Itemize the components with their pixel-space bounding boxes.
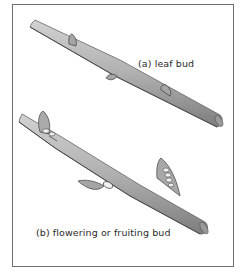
fruiting-bud-2 — [78, 180, 114, 190]
caption-fruiting-bud: (b) flowering or fruiting bud — [36, 227, 171, 238]
fruiting-bud-branch — [19, 111, 210, 235]
caption-leaf-bud: (a) leaf bud — [138, 58, 194, 69]
fruiting-bud-3 — [157, 158, 180, 196]
leaf-bud-branch — [30, 20, 225, 128]
leaf-bud-1 — [69, 34, 77, 46]
leaf-bud-2 — [106, 74, 117, 79]
